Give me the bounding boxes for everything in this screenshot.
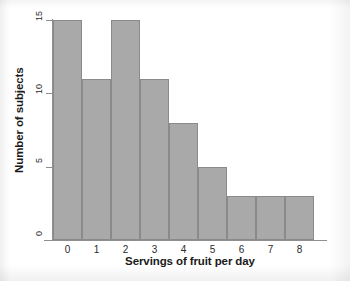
y-axis-title: Number of subjects [13, 0, 25, 240]
bar [285, 196, 314, 240]
y-tick-label: 0 [34, 231, 44, 236]
y-tick-mark [46, 93, 52, 94]
x-tick-label: 0 [58, 244, 78, 255]
x-axis-line [44, 240, 327, 241]
bar [53, 20, 82, 240]
bar [169, 123, 198, 240]
x-tick-label: 4 [174, 244, 194, 255]
bar [256, 196, 285, 240]
bar [140, 79, 169, 240]
y-axis-line [52, 19, 53, 241]
bar [111, 20, 140, 240]
x-tick-label: 5 [203, 244, 223, 255]
y-tick-mark [46, 20, 52, 21]
x-tick-label: 6 [232, 244, 252, 255]
x-tick-label: 1 [87, 244, 107, 255]
x-tick-label: 2 [116, 244, 136, 255]
y-tick-label: 10 [34, 84, 44, 94]
y-tick-label: 15 [34, 11, 44, 21]
y-tick-label: 5 [34, 158, 44, 163]
bar [198, 167, 227, 240]
histogram-figure: 051015 012345678 Servings of fruit per d… [0, 0, 350, 281]
bar [82, 79, 111, 240]
x-tick-label: 7 [261, 244, 281, 255]
x-tick-label: 8 [290, 244, 310, 255]
y-tick-mark [46, 240, 52, 241]
x-axis-title: Servings of fruit per day [0, 255, 350, 267]
y-tick-mark [46, 167, 52, 168]
x-tick-label: 3 [145, 244, 165, 255]
bar [227, 196, 256, 240]
bar-series [53, 20, 314, 240]
